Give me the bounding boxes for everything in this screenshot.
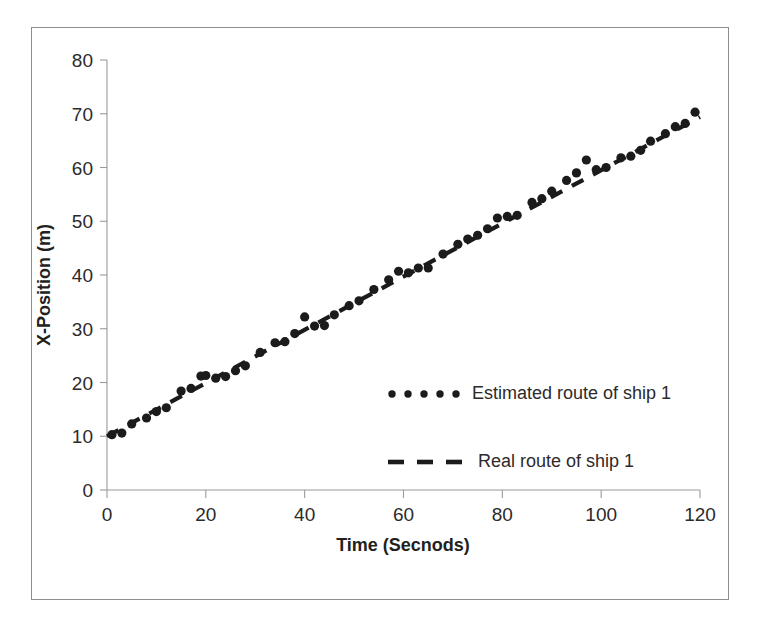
data-point <box>354 296 363 305</box>
data-point <box>117 428 126 437</box>
legend-label-estimated: Estimated route of ship 1 <box>472 383 671 403</box>
data-point <box>404 268 413 277</box>
x-axis-ticks: 020406080100120 <box>102 490 716 525</box>
scatter-plot: 01020304050607080 020406080100120 Time (… <box>0 0 759 639</box>
data-point <box>424 263 433 272</box>
y-axis-ticks: 01020304050607080 <box>72 50 107 501</box>
data-point <box>646 137 655 146</box>
data-point <box>626 152 635 161</box>
data-point <box>503 212 512 221</box>
data-point <box>107 430 116 439</box>
data-point <box>290 329 299 338</box>
data-point <box>221 372 230 381</box>
data-point <box>241 361 250 370</box>
x-tick-label: 40 <box>294 504 315 525</box>
chart-container: 01020304050607080 020406080100120 Time (… <box>0 0 759 639</box>
data-point <box>280 337 289 346</box>
data-point <box>270 338 279 347</box>
data-point <box>483 224 492 233</box>
legend-label-real: Real route of ship 1 <box>478 451 634 471</box>
data-point <box>384 275 393 284</box>
legend-dot-icon <box>404 390 411 397</box>
data-point <box>310 321 319 330</box>
data-point <box>330 310 339 319</box>
data-point <box>547 187 556 196</box>
data-point <box>592 165 601 174</box>
data-point <box>152 407 161 416</box>
y-tick-label: 60 <box>72 158 93 179</box>
data-point <box>142 413 151 422</box>
data-point <box>438 249 447 258</box>
legend-dot-icon <box>420 390 427 397</box>
data-point <box>527 198 536 207</box>
data-point <box>394 267 403 276</box>
data-point <box>211 374 220 383</box>
legend-entry-estimated[interactable]: Estimated route of ship 1 <box>388 383 671 403</box>
data-point <box>256 348 265 357</box>
y-tick-label: 40 <box>72 265 93 286</box>
x-axis-title: Time (Secnods) <box>336 535 470 555</box>
data-point <box>690 108 699 117</box>
data-point <box>572 168 581 177</box>
x-tick-label: 80 <box>492 504 513 525</box>
y-tick-label: 0 <box>82 480 93 501</box>
data-point <box>681 119 690 128</box>
data-point <box>162 403 171 412</box>
data-point <box>602 163 611 172</box>
legend-dot-icon <box>436 390 443 397</box>
data-point <box>231 366 240 375</box>
y-tick-label: 10 <box>72 426 93 447</box>
data-point <box>369 285 378 294</box>
x-tick-label: 20 <box>195 504 216 525</box>
data-point <box>562 176 571 185</box>
data-point <box>661 129 670 138</box>
chart-legend: Estimated route of ship 1 Real route of … <box>388 383 671 471</box>
data-point <box>537 194 546 203</box>
data-point <box>636 146 645 155</box>
data-point <box>493 213 502 222</box>
data-point <box>463 234 472 243</box>
legend-dot-icon <box>452 390 459 397</box>
y-axis-title: X-Position (m) <box>34 224 54 346</box>
y-tick-label: 20 <box>72 373 93 394</box>
data-point <box>320 321 329 330</box>
y-tick-label: 50 <box>72 211 93 232</box>
data-point <box>616 153 625 162</box>
data-point <box>127 419 136 428</box>
data-point <box>513 211 522 220</box>
legend-dot-icon <box>388 390 395 397</box>
x-tick-label: 120 <box>684 504 716 525</box>
data-point <box>186 384 195 393</box>
legend-entry-real[interactable]: Real route of ship 1 <box>388 451 634 471</box>
y-tick-label: 30 <box>72 319 93 340</box>
data-point <box>453 240 462 249</box>
data-point <box>177 387 186 396</box>
data-point <box>582 155 591 164</box>
x-tick-label: 60 <box>393 504 414 525</box>
data-point <box>473 231 482 240</box>
data-point <box>201 371 210 380</box>
data-point <box>300 312 309 321</box>
data-point <box>345 301 354 310</box>
x-tick-label: 0 <box>102 504 113 525</box>
x-tick-label: 100 <box>585 504 617 525</box>
y-tick-label: 80 <box>72 50 93 71</box>
data-point <box>671 122 680 131</box>
data-point <box>414 263 423 272</box>
y-tick-label: 70 <box>72 104 93 125</box>
